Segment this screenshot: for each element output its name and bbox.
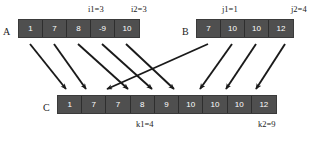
- array-cell: 7: [82, 96, 106, 113]
- arrow-a1-to-c1: [54, 44, 86, 89]
- array-cell: 7: [106, 96, 130, 113]
- array-cell: 10: [115, 20, 139, 37]
- array-cell: 10: [179, 96, 203, 113]
- index-marker-i2: i2=3: [131, 5, 147, 14]
- arrow-b3-to-c8: [256, 44, 285, 89]
- array-cell: 8: [67, 20, 91, 37]
- array-label-a: A: [3, 27, 10, 37]
- array-cell: 7: [43, 20, 67, 37]
- index-marker-k2: k2=9: [258, 120, 276, 129]
- arrow-b2-to-c7: [226, 44, 256, 89]
- arrow-a2-to-c3: [78, 44, 128, 89]
- array-cell: 7: [197, 20, 221, 37]
- array-a: 178-910: [18, 19, 140, 38]
- array-cell: 1: [19, 20, 43, 37]
- arrow-a4-to-c5: [126, 44, 174, 89]
- array-cell: 12: [252, 96, 276, 113]
- arrow-b0-to-c2: [107, 44, 208, 89]
- array-cell: 12: [269, 20, 293, 37]
- array-cell: 1: [58, 96, 82, 113]
- array-cell: 9: [155, 96, 179, 113]
- array-label-c: C: [43, 103, 50, 113]
- merge-diagram: i1=3 i2=3 j1=1 j2=4 A 178-910 B 7101012 …: [0, 0, 321, 141]
- arrow-a3-to-c4: [102, 44, 152, 89]
- index-marker-i1: i1=3: [88, 5, 104, 14]
- index-marker-j2: j2=4: [291, 5, 307, 14]
- index-marker-j1: j1=1: [222, 5, 238, 14]
- index-marker-k1: k1=4: [136, 120, 154, 129]
- array-cell: 8: [131, 96, 155, 113]
- array-c: 1778910101012: [57, 95, 277, 114]
- arrow-b1-to-c6: [200, 44, 232, 89]
- array-cell: 10: [221, 20, 245, 37]
- array-cell: 10: [228, 96, 252, 113]
- array-cell: 10: [245, 20, 269, 37]
- array-cell: 10: [203, 96, 227, 113]
- array-cell: -9: [91, 20, 115, 37]
- arrow-a0-to-c0: [30, 44, 66, 89]
- array-b: 7101012: [196, 19, 294, 38]
- array-label-b: B: [182, 27, 189, 37]
